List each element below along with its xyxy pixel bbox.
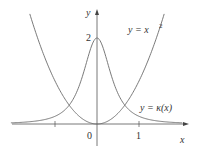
x-axis-arrow-icon [183,122,189,126]
x-axis-label: x [179,134,185,145]
tick-label-zero: 0 [87,130,92,141]
tick-label-one: 1 [136,130,141,141]
kappa-label: y = κ(x) [139,102,173,114]
y-axis-label: y [85,7,91,18]
y-axis-arrow-icon [95,9,99,15]
chart-canvas: y x 0 1 2 y = x 2 y = κ(x) [0,0,199,150]
tick-label-two: 2 [86,32,91,43]
parabola-label-exponent: 2 [159,22,163,30]
parabola-label: y = x [127,24,149,35]
